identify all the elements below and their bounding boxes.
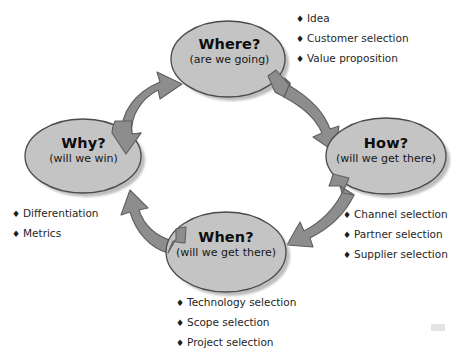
- list-item: ♦ Technology selection: [176, 296, 296, 308]
- list-item-label: Metrics: [23, 227, 61, 239]
- bullet-list-why: ♦ Differentiation ♦ Metrics: [12, 207, 98, 239]
- list-item-label: Supplier selection: [354, 248, 448, 260]
- list-item-label: Partner selection: [354, 228, 443, 240]
- bullet-list-when: ♦ Technology selection ♦ Scope selection…: [176, 296, 296, 348]
- list-item: ♦ Project selection: [176, 336, 296, 348]
- diamond-bullet-icon: ♦: [176, 338, 187, 348]
- node-when[interactable]: [166, 212, 286, 292]
- list-item-label: Idea: [307, 12, 330, 24]
- bullet-list-how: ♦ Channel selection ♦ Partner selection …: [343, 208, 448, 260]
- diamond-bullet-icon: ♦: [343, 210, 354, 220]
- list-item: ♦ Differentiation: [12, 207, 98, 219]
- diamond-bullet-icon: ♦: [296, 34, 307, 44]
- list-item: ♦ Supplier selection: [343, 248, 448, 260]
- diagram-canvas: Where? (are we going) How? (will we get …: [0, 0, 456, 363]
- diamond-bullet-icon: ♦: [176, 298, 187, 308]
- list-item: ♦ Partner selection: [343, 228, 448, 240]
- diamond-bullet-icon: ♦: [343, 250, 354, 260]
- node-where[interactable]: [171, 21, 285, 97]
- list-item: ♦ Idea: [296, 12, 409, 24]
- list-item-label: Scope selection: [187, 316, 270, 328]
- diamond-bullet-icon: ♦: [296, 14, 307, 24]
- list-item-label: Value proposition: [307, 52, 398, 64]
- list-item-label: Differentiation: [23, 207, 98, 219]
- diamond-bullet-icon: ♦: [12, 229, 23, 239]
- list-item: ♦ Channel selection: [343, 208, 448, 220]
- diamond-bullet-icon: ♦: [343, 230, 354, 240]
- bullet-list-where: ♦ Idea ♦ Customer selection ♦ Value prop…: [296, 12, 409, 64]
- list-item-label: Channel selection: [354, 208, 448, 220]
- list-item-label: Project selection: [187, 336, 273, 348]
- list-item-label: Customer selection: [307, 32, 409, 44]
- list-item: ♦ Metrics: [12, 227, 98, 239]
- list-item-label: Technology selection: [187, 296, 296, 308]
- scan-artifact: [431, 324, 445, 331]
- list-item: ♦ Customer selection: [296, 32, 409, 44]
- diamond-bullet-icon: ♦: [12, 209, 23, 219]
- diamond-bullet-icon: ♦: [296, 54, 307, 64]
- diamond-bullet-icon: ♦: [176, 318, 187, 328]
- list-item: ♦ Value proposition: [296, 52, 409, 64]
- list-item: ♦ Scope selection: [176, 316, 296, 328]
